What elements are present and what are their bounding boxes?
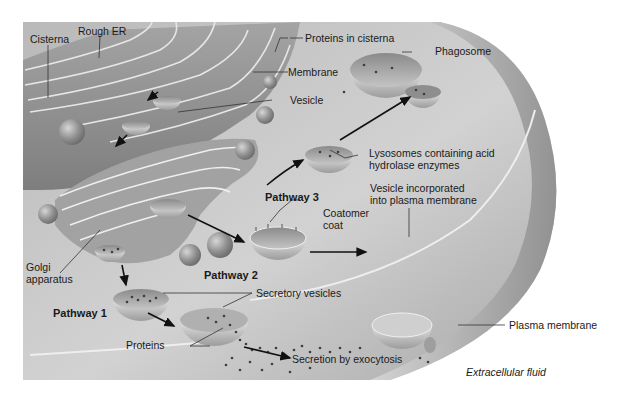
label-proteins: Proteins <box>126 340 165 351</box>
label-membrane: Membrane <box>288 67 338 78</box>
label-extracellular-fluid: Extracellular fluid <box>466 367 546 378</box>
label-pathway-3: Pathway 3 <box>265 192 319 203</box>
label-pathway-2: Pathway 2 <box>204 270 258 281</box>
label-golgi-line2: apparatus <box>26 274 73 285</box>
label-secretion-by-exocytosis: Secretion by exocytosis <box>292 354 402 365</box>
label-secretory-vesicles: Secretory vesicles <box>256 288 341 299</box>
label-coatomer-line1: Coatomer <box>323 208 369 219</box>
label-pathway-1: Pathway 1 <box>53 308 107 319</box>
label-vesicle-incorporated-line2: into plasma membrane <box>370 195 477 206</box>
label-vesicle: Vesicle <box>290 95 323 106</box>
label-plasma-membrane: Plasma membrane <box>509 320 597 331</box>
cell-illustration <box>0 0 620 409</box>
label-vesicle-incorporated-line1: Vesicle incorporated <box>370 183 465 194</box>
label-rough-er: Rough ER <box>78 26 126 37</box>
label-phagosome: Phagosome <box>435 46 491 57</box>
label-cisterna: Cisterna <box>30 34 69 45</box>
label-lysosomes-line2: hydrolase enzymes <box>369 160 459 171</box>
label-proteins-in-cisterna: Proteins in cisterna <box>305 33 394 44</box>
secretory-pathway-diagram: Cisterna Rough ER Proteins in cisterna M… <box>0 0 620 409</box>
label-golgi-line1: Golgi <box>26 262 51 273</box>
label-coatomer-line2: coat <box>323 220 343 231</box>
label-lysosomes-line1: Lysosomes containing acid <box>369 148 495 159</box>
